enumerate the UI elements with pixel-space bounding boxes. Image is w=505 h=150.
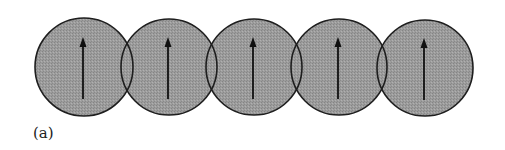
overlapping-spheres-diagram [0,0,505,150]
spheres-group [35,18,473,116]
figure-label: (a) [33,124,54,142]
